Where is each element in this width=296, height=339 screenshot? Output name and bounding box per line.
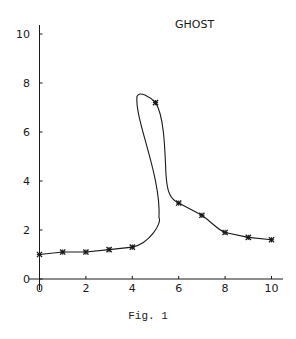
y-tick-label: 4 <box>23 175 30 188</box>
y-tick-label: 10 <box>16 28 30 41</box>
asterisk-marker-icon <box>60 249 65 254</box>
x-tick-label: 2 <box>82 282 89 295</box>
asterisk-marker-icon <box>37 252 42 257</box>
y-tick-label: 8 <box>23 77 30 90</box>
asterisk-marker-icon <box>223 230 228 235</box>
asterisk-marker-icon <box>130 245 135 250</box>
x-tick-label: 10 <box>265 282 279 295</box>
y-tick-label: 2 <box>23 224 30 237</box>
asterisk-marker-icon <box>269 237 274 242</box>
line-chart: 02468100246810 GHOST <box>0 0 296 339</box>
x-tick-label: 8 <box>222 282 229 295</box>
asterisk-marker-icon <box>246 235 251 240</box>
chart-title: GHOST <box>175 18 214 31</box>
x-tick-label: 0 <box>36 282 43 295</box>
asterisk-marker-icon <box>107 247 112 252</box>
data-curve <box>40 94 272 255</box>
axes <box>29 25 283 290</box>
y-tick-label: 6 <box>23 126 30 139</box>
x-tick-label: 4 <box>129 282 136 295</box>
figure-caption: Fig. 1 <box>0 310 296 322</box>
asterisk-marker-icon <box>83 249 88 254</box>
x-tick-label: 6 <box>175 282 182 295</box>
asterisk-marker-icon <box>153 100 158 105</box>
asterisk-marker-icon <box>199 213 204 218</box>
asterisk-marker-icon <box>176 200 181 205</box>
tick-labels: 02468100246810 <box>16 28 279 295</box>
y-tick-label: 0 <box>23 273 30 286</box>
